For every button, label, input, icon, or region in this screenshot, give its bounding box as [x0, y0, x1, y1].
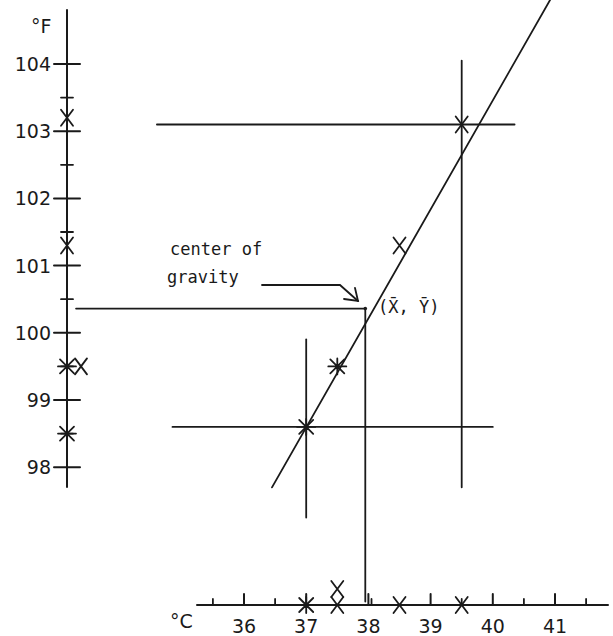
regression-line-group — [272, 0, 552, 487]
y-marginal-star — [58, 358, 76, 374]
data-point-x — [394, 237, 406, 253]
x-tick-label: 38 — [356, 615, 380, 636]
y-tick-label: 99 — [27, 389, 51, 411]
x-marginal-star — [297, 597, 315, 613]
annotation-line-2: gravity — [167, 267, 239, 287]
x-tick-label: 36 — [232, 615, 256, 636]
data-point-star — [297, 419, 315, 435]
x-tick-label: 40 — [481, 615, 505, 636]
x-marginal-star-stroke — [297, 597, 315, 613]
y-marginal-star-stroke — [58, 358, 76, 374]
x-marginal-x — [331, 581, 343, 597]
data-point-star — [328, 358, 346, 374]
temperature-regression-chart: 9899100101102103104363738394041 °F °C ce… — [0, 0, 613, 636]
y-tick-label: 103 — [15, 120, 51, 142]
x-tick-label: 37 — [294, 615, 318, 636]
x-tick-label: 41 — [543, 615, 567, 636]
reference-lines — [76, 61, 515, 602]
annotation-line-1: center of — [170, 239, 262, 259]
y-axis-unit-label: °F — [31, 15, 51, 37]
marks — [58, 110, 468, 613]
y-tick-label: 101 — [15, 255, 51, 277]
y-tick-label: 100 — [15, 322, 51, 344]
center-of-gravity-point — [363, 307, 367, 311]
data-point-star-stroke — [297, 419, 315, 435]
y-marginal-star — [58, 426, 76, 442]
x-tick-label: 39 — [419, 615, 443, 636]
center-of-gravity-label: (X̄, Ȳ) — [378, 296, 439, 317]
y-tick-label: 104 — [15, 53, 51, 75]
regression-line — [272, 0, 552, 487]
x-axis-unit-label: °C — [170, 610, 193, 632]
x-marginal-x-stroke — [331, 581, 343, 597]
axes: 9899100101102103104363738394041 — [15, 10, 608, 636]
data-point-x-stroke — [394, 237, 406, 253]
y-marginal-star-stroke — [58, 426, 76, 442]
data-point-star-stroke — [328, 358, 346, 374]
y-tick-label: 102 — [15, 187, 51, 209]
y-tick-label: 98 — [27, 456, 51, 478]
